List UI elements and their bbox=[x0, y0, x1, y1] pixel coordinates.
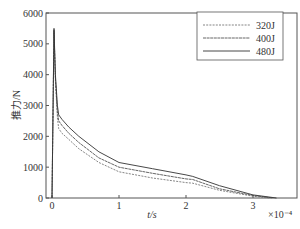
legend: 320J400J480J bbox=[197, 12, 283, 60]
y-tick-label: 5000 bbox=[23, 38, 43, 49]
y-tick-label: 3000 bbox=[23, 100, 43, 111]
legend-label-480j: 480J bbox=[256, 46, 275, 57]
y-axis: 0100020003000400050006000 bbox=[23, 8, 49, 204]
y-tick-label: 4000 bbox=[23, 69, 43, 80]
legend-label-320j: 320J bbox=[256, 20, 275, 31]
x-tick-label: 2 bbox=[184, 200, 189, 211]
x-multiplier-label: ×10⁻⁴ bbox=[268, 209, 293, 220]
chart: 0100020003000400050006000 0123 推力/N t/s … bbox=[0, 0, 300, 229]
y-tick-label: 2000 bbox=[23, 131, 43, 142]
legend-label-400j: 400J bbox=[256, 33, 275, 44]
y-tick-label: 6000 bbox=[23, 8, 43, 19]
x-tick-label: 1 bbox=[117, 200, 122, 211]
y-axis-label: 推力/N bbox=[10, 90, 22, 120]
y-tick-label: 0 bbox=[38, 193, 43, 204]
x-axis-label: t/s bbox=[147, 209, 157, 220]
y-tick-label: 1000 bbox=[23, 162, 43, 173]
x-tick-label: 0 bbox=[50, 200, 55, 211]
x-tick-label: 3 bbox=[251, 200, 256, 211]
